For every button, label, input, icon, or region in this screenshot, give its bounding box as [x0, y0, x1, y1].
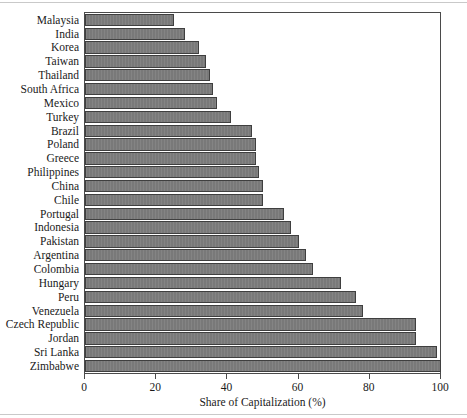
bar	[85, 166, 259, 178]
bar-row	[85, 166, 441, 178]
bottom-edge-rule	[0, 414, 467, 415]
bar	[85, 318, 416, 330]
bar	[85, 152, 256, 164]
x-axis-tick	[440, 374, 441, 379]
bar	[85, 55, 206, 67]
bar-row	[85, 180, 441, 192]
category-label: China	[0, 180, 79, 192]
bar	[85, 83, 213, 95]
x-axis-tick-label: 40	[206, 381, 246, 393]
bar	[85, 14, 174, 26]
category-label: Jordan	[0, 332, 79, 344]
bar	[85, 194, 263, 206]
category-label: Zimbabwe	[0, 360, 79, 372]
bar-row	[85, 83, 441, 95]
x-axis-tick	[298, 374, 299, 379]
bar-row	[85, 263, 441, 275]
bar	[85, 221, 291, 233]
x-axis-tick-label: 100	[420, 381, 460, 393]
bar	[85, 332, 416, 344]
x-axis-title: Share of Capitalization (%)	[84, 396, 441, 408]
bar	[85, 208, 284, 220]
category-label: Philippines	[0, 166, 79, 178]
bar-row	[85, 194, 441, 206]
category-label: Hungary	[0, 277, 79, 289]
category-label: Mexico	[0, 97, 79, 109]
bar	[85, 69, 210, 81]
category-label: Greece	[0, 152, 79, 164]
bar	[85, 97, 217, 109]
bar-row	[85, 69, 441, 81]
bar-row	[85, 332, 441, 344]
x-axis-tick-label: 80	[349, 381, 389, 393]
bar-row	[85, 249, 441, 261]
category-label: Turkey	[0, 111, 79, 123]
bar	[85, 125, 252, 137]
category-label: Chile	[0, 194, 79, 206]
x-axis-tick	[369, 374, 370, 379]
bar-row	[85, 152, 441, 164]
x-axis-tick-label: 0	[64, 381, 104, 393]
category-label: Sri Lanka	[0, 346, 79, 358]
top-edge-rule	[0, 2, 467, 3]
bar-chart-figure: MalaysiaIndiaKoreaTaiwanThailandSouth Af…	[0, 0, 467, 418]
bar-row	[85, 235, 441, 247]
bar-row	[85, 138, 441, 150]
bar-row	[85, 360, 441, 372]
bar-row	[85, 208, 441, 220]
bar-row	[85, 305, 441, 317]
bar	[85, 291, 356, 303]
bar	[85, 41, 199, 53]
category-label: Colombia	[0, 263, 79, 275]
bar-row	[85, 277, 441, 289]
bar-row	[85, 41, 441, 53]
category-label: Pakistan	[0, 235, 79, 247]
bar	[85, 180, 263, 192]
bar	[85, 346, 437, 358]
x-axis-tick	[84, 374, 85, 379]
bar	[85, 360, 441, 372]
bar	[85, 138, 256, 150]
bar-row	[85, 221, 441, 233]
x-axis-tick-label: 60	[278, 381, 318, 393]
category-label: South Africa	[0, 83, 79, 95]
bar	[85, 305, 363, 317]
category-label: Portugal	[0, 208, 79, 220]
category-label: India	[0, 28, 79, 40]
bar	[85, 235, 299, 247]
category-label: Poland	[0, 138, 79, 150]
bar-row	[85, 28, 441, 40]
x-axis-tick	[155, 374, 156, 379]
bar-row	[85, 291, 441, 303]
category-label: Korea	[0, 41, 79, 53]
bar	[85, 28, 185, 40]
bar-row	[85, 318, 441, 330]
bar-row	[85, 111, 441, 123]
bar	[85, 277, 341, 289]
x-axis-tick-label: 20	[135, 381, 175, 393]
bar	[85, 263, 313, 275]
category-axis-labels: MalaysiaIndiaKoreaTaiwanThailandSouth Af…	[0, 13, 79, 373]
bar-row	[85, 346, 441, 358]
category-label: Argentina	[0, 249, 79, 261]
category-label: Taiwan	[0, 55, 79, 67]
bar-row	[85, 55, 441, 67]
x-axis-tick	[226, 374, 227, 379]
bar-row	[85, 14, 441, 26]
category-label: Venezuela	[0, 305, 79, 317]
bar	[85, 249, 306, 261]
bar	[85, 111, 231, 123]
bar-row	[85, 125, 441, 137]
category-label: Malaysia	[0, 14, 79, 26]
bars-container	[85, 13, 441, 373]
category-label: Brazil	[0, 125, 79, 137]
category-label: Thailand	[0, 69, 79, 81]
category-label: Czech Republic	[0, 318, 79, 330]
bar-row	[85, 97, 441, 109]
category-label: Indonesia	[0, 221, 79, 233]
category-label: Peru	[0, 291, 79, 303]
